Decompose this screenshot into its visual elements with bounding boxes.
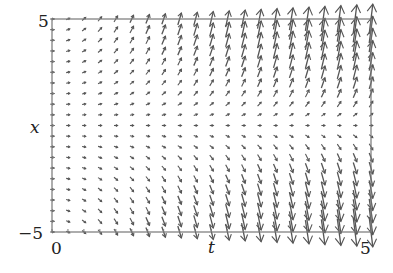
- x-axis-label: t: [208, 239, 215, 256]
- y-axis-label: x: [30, 119, 40, 136]
- x-tick-label-right: 5: [360, 240, 371, 257]
- vector-field-plot: [0, 0, 393, 273]
- x-tick-label-left: 0: [51, 240, 62, 257]
- y-tick-label-top: 5: [38, 13, 49, 30]
- quiver-arrows: [50, 4, 376, 247]
- y-tick-label-bottom: −5: [18, 225, 43, 242]
